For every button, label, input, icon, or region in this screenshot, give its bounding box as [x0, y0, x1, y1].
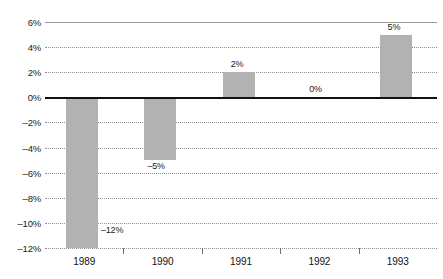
y-axis-tick-label: –4% [1, 142, 41, 153]
x-axis-tick [202, 248, 203, 254]
zero-baseline [45, 97, 437, 99]
y-axis-tick-label: –12% [1, 243, 41, 254]
bar-value-label-1990: –5% [147, 161, 164, 171]
y-axis-tick-label: 2% [1, 67, 41, 78]
y-axis-tick-label: –10% [1, 217, 41, 228]
x-axis-line [45, 248, 437, 249]
bar-value-label-1992: 0% [309, 84, 322, 94]
y-axis-tick-label: 6% [1, 17, 41, 28]
bar-value-label-1993: 5% [388, 22, 401, 32]
x-axis-label-1990: 1990 [123, 256, 201, 267]
plot-area: –12% –5% 2% 0% 5% [45, 22, 437, 248]
x-axis-label-1992: 1992 [280, 256, 358, 267]
bars-layer: –12% –5% 2% 0% 5% [45, 22, 437, 248]
category-slot-1990: –5% [123, 22, 201, 248]
category-slot-1992: 0% [280, 22, 358, 248]
y-axis-tick-label: –2% [1, 117, 41, 128]
x-axis-label-1991: 1991 [202, 256, 280, 267]
y-axis-tick-label: 0% [1, 92, 41, 103]
y-axis-tick-label: –8% [1, 192, 41, 203]
bar-1989[interactable] [66, 97, 98, 248]
x-axis-tick [280, 248, 281, 254]
bar-1990[interactable] [144, 97, 176, 160]
bar-1993[interactable] [380, 35, 412, 98]
bar-value-label-1989: –12% [101, 225, 123, 235]
category-slot-1989: –12% [45, 22, 123, 248]
y-axis-tick-label: 4% [1, 42, 41, 53]
bar-1991[interactable] [223, 72, 255, 97]
category-slot-1993: 5% [359, 22, 437, 248]
y-axis-labels: 6% 4% 2% 0% –2% –4% –6% –8% –10% –12% [0, 22, 41, 248]
x-axis-tick [359, 248, 360, 254]
x-axis-tick [123, 248, 124, 254]
x-axis-label-1993: 1993 [359, 256, 437, 267]
y-axis-tick-label: –6% [1, 167, 41, 178]
x-axis-label-1989: 1989 [45, 256, 123, 267]
category-slot-1991: 2% [202, 22, 280, 248]
bar-value-label-1991: 2% [231, 59, 244, 69]
bar-chart: 6% 4% 2% 0% –2% –4% –6% –8% –10% –12% –1… [0, 0, 443, 279]
